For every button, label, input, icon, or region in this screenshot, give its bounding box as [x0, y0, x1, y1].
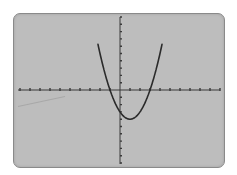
graph-plot	[14, 14, 224, 167]
parabola-curve	[98, 44, 162, 119]
calculator-screen	[13, 13, 225, 168]
